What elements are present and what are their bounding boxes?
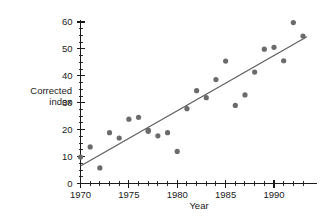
data-point	[271, 45, 276, 50]
y-axis-title: Corrected index	[30, 85, 72, 107]
data-point	[262, 47, 267, 52]
x-tick-label: 1970	[70, 189, 91, 200]
data-point	[175, 149, 180, 154]
data-point	[223, 58, 228, 63]
y-tick-label: 40	[62, 70, 73, 81]
trend-line-group	[81, 37, 307, 166]
data-point	[300, 33, 305, 38]
x-tick-label: 1975	[118, 189, 139, 200]
y-axis-title-line2: index	[49, 96, 72, 107]
data-point	[107, 130, 112, 135]
data-point	[281, 58, 286, 63]
data-point	[252, 69, 257, 74]
data-point	[184, 106, 189, 111]
y-tick-label: 10	[62, 151, 73, 162]
y-tick-label: 60	[62, 16, 73, 27]
scatter-chart: 0102030405060 19701975198019851990 Corre…	[0, 0, 325, 217]
data-point	[291, 20, 296, 25]
x-tick-label: 1980	[167, 189, 188, 200]
data-point	[136, 115, 141, 120]
data-point	[88, 144, 93, 149]
x-tick-label: 1990	[263, 189, 284, 200]
x-axis-tick-labels: 19701975198019851990	[70, 189, 285, 200]
x-axis-group: 19701975198019851990	[70, 180, 317, 200]
chart-canvas: 0102030405060 19701975198019851990 Corre…	[0, 0, 325, 217]
data-point	[213, 77, 218, 82]
data-point	[233, 103, 238, 108]
regression-trend-line	[81, 37, 307, 166]
data-point	[97, 165, 102, 170]
data-point	[165, 130, 170, 135]
data-point	[194, 88, 199, 93]
y-tick-label: 0	[67, 178, 72, 189]
x-axis-title: Year	[189, 200, 208, 211]
data-point	[78, 155, 83, 160]
data-point	[146, 129, 151, 134]
y-tick-label: 50	[62, 43, 73, 54]
x-tick-label: 1985	[215, 189, 236, 200]
y-tick-label: 20	[62, 124, 73, 135]
data-point	[155, 133, 160, 138]
data-point	[242, 92, 247, 97]
data-point	[117, 135, 122, 140]
data-point	[204, 95, 209, 100]
y-axis-title-line1: Corrected	[30, 85, 72, 96]
data-point	[126, 117, 131, 122]
